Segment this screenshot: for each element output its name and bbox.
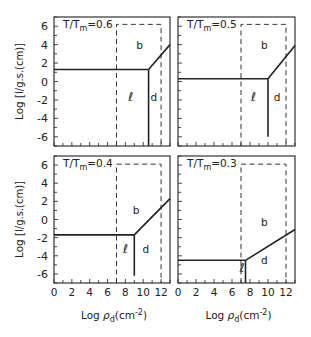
x-tick-label: 6	[104, 286, 111, 298]
y-tick-label: 0	[41, 76, 48, 89]
y-tick-label: 6	[41, 159, 48, 172]
region-label-b: b	[136, 39, 143, 51]
x-tick-label: 12	[154, 286, 167, 298]
y-tick-label: -6	[37, 268, 48, 281]
panel-top-right: T/Tm=0.5bℓd	[178, 17, 295, 146]
x-tick-label: 4	[86, 286, 93, 298]
plot-frame	[178, 17, 295, 146]
panel-title: T/Tm=0.5	[186, 18, 237, 33]
region-label-l: ℓ	[122, 242, 128, 256]
boundary-line-slope	[149, 45, 170, 70]
plot-frame	[54, 17, 170, 146]
x-axis-label: Log ρd(cm-2)	[81, 308, 147, 324]
region-label-d: d	[274, 91, 281, 103]
figure: 6420-2-4-6T/Tm=0.6bℓdLog [l/g.s.(cm)]T/T…	[0, 0, 311, 337]
x-tick-label: 6	[229, 286, 236, 298]
x-tick-label: 8	[122, 286, 129, 298]
region-label-b: b	[261, 39, 268, 51]
x-tick-label: 2	[193, 286, 200, 298]
y-tick-label: -2	[37, 94, 48, 107]
panel-title: T/Tm=0.3	[186, 157, 237, 172]
panel-title: T/Tm=0.6	[62, 18, 113, 33]
region-label-d: d	[151, 91, 158, 103]
y-axis-label: Log [l/g.s.(cm)]	[13, 181, 25, 258]
panel-bottom-right: 024681012T/Tm=0.3bℓdLog ρd(cm-2)	[175, 156, 295, 324]
region-label-l: ℓ	[127, 90, 133, 104]
region-label-l: ℓ	[238, 261, 244, 275]
region-label-d: d	[143, 243, 150, 255]
y-tick-label: -4	[37, 250, 48, 263]
x-axis-label: Log ρd(cm-2)	[205, 308, 271, 324]
region-label-d: d	[261, 254, 268, 266]
panel-title: T/Tm=0.4	[62, 157, 113, 172]
y-axis-label: Log [l/g.s.(cm)]	[13, 43, 25, 120]
x-tick-label: 0	[51, 286, 58, 298]
y-tick-label: 4	[41, 177, 48, 190]
y-tick-label: 0	[41, 214, 48, 227]
region-label-b: b	[261, 216, 268, 228]
boundary-line-slope	[268, 46, 295, 79]
panel-bottom-left: 6420-2-4-6024681012T/Tm=0.4bℓdLog [l/g.s…	[13, 156, 170, 324]
y-tick-label: -4	[37, 112, 48, 125]
y-tick-label: -6	[37, 131, 48, 144]
x-tick-label: 2	[69, 286, 76, 298]
y-tick-label: 6	[41, 20, 48, 33]
dashed-boundary	[116, 164, 161, 283]
plot-frame	[178, 156, 295, 283]
x-tick-label: 10	[261, 286, 274, 298]
region-label-l: ℓ	[250, 90, 256, 104]
y-tick-label: 4	[41, 39, 48, 52]
y-tick-label: 2	[41, 57, 48, 70]
x-tick-label: 4	[211, 286, 218, 298]
boundary-line-slope	[246, 229, 296, 260]
y-tick-label: 2	[41, 195, 48, 208]
y-tick-label: -2	[37, 232, 48, 245]
x-tick-label: 8	[247, 286, 254, 298]
x-tick-label: 0	[175, 286, 182, 298]
x-tick-label: 12	[279, 286, 292, 298]
x-tick-label: 10	[137, 286, 150, 298]
panel-top-left: 6420-2-4-6T/Tm=0.6bℓdLog [l/g.s.(cm)]	[13, 17, 170, 146]
plot-frame	[54, 156, 170, 283]
region-label-b: b	[133, 204, 140, 216]
boundary-line-slope	[134, 199, 170, 235]
